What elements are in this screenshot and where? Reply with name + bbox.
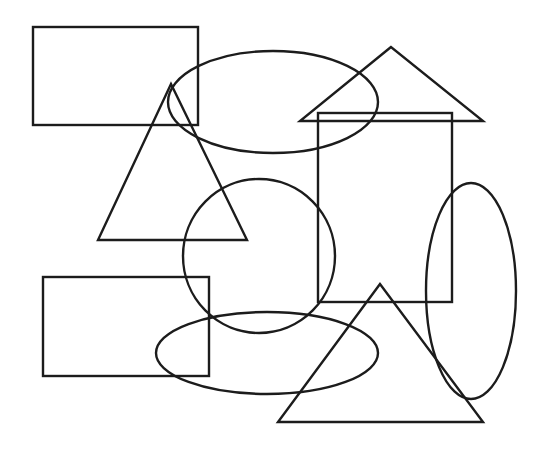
shapes-canvas bbox=[0, 0, 545, 449]
canvas-background bbox=[0, 0, 545, 449]
